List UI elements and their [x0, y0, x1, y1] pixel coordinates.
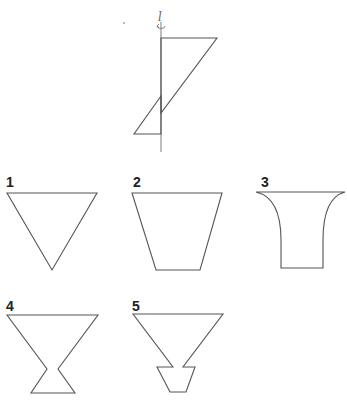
option-1[interactable]: 1	[6, 174, 97, 270]
option-4[interactable]: 4	[6, 298, 98, 393]
rotation-figure: l	[123, 10, 217, 152]
option-3[interactable]: 3	[256, 174, 345, 268]
upper-triangle	[161, 38, 217, 113]
axis-label: l	[158, 10, 162, 24]
option-4-shape	[7, 315, 98, 393]
option-1-shape	[7, 193, 97, 270]
option-2[interactable]: 2	[132, 174, 222, 270]
option-3-label: 3	[261, 174, 269, 190]
option-5-shape	[133, 314, 223, 392]
stray-dot	[123, 22, 125, 24]
option-5[interactable]: 5	[132, 298, 223, 392]
option-2-label: 2	[133, 174, 141, 190]
lower-triangle	[134, 96, 161, 134]
option-4-label: 4	[6, 298, 14, 314]
diagram-canvas: l 1 2 3 4 5	[0, 0, 347, 409]
option-3-shape	[256, 192, 345, 268]
option-5-label: 5	[132, 298, 140, 314]
option-1-label: 1	[6, 174, 14, 190]
option-2-shape	[132, 193, 222, 270]
